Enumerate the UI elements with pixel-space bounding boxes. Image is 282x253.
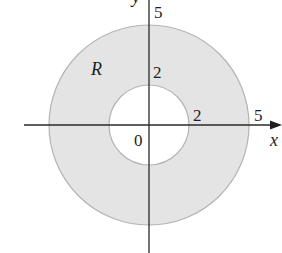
x-axis-arrow-icon <box>270 121 282 130</box>
x-tick-label-2: 2 <box>193 106 202 125</box>
y-axis-label: y <box>130 0 140 7</box>
y-tick-label-2: 2 <box>153 63 162 82</box>
x-axis-label: x <box>269 130 278 150</box>
origin-label: 0 <box>134 131 143 150</box>
annulus-diagram: y 5 R 2 2 5 0 x <box>0 0 282 253</box>
x-tick-label-5: 5 <box>254 106 263 125</box>
y-tick-label-5: 5 <box>154 3 163 22</box>
region-label-r: R <box>90 59 102 79</box>
